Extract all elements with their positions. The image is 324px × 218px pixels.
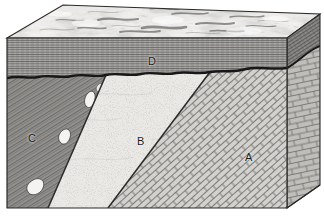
unit-label-A: A: [245, 152, 252, 163]
unit-label-D: D: [148, 56, 156, 67]
block-diagram-figure: D C B A: [0, 0, 324, 218]
right-side-face: [287, 14, 320, 208]
geologic-block-diagram-svg: [0, 0, 324, 218]
unit-label-B: B: [137, 136, 144, 147]
unit-label-C: C: [28, 133, 36, 144]
